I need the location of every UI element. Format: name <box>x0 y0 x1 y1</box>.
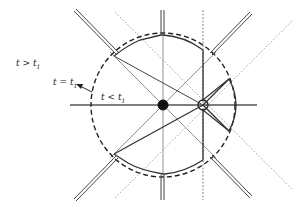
label-t-greater-text: t > t <box>16 58 37 68</box>
dotted-diagonal-2 <box>115 20 293 198</box>
dotted-diagonal-1 <box>115 12 293 190</box>
label-t-equal-sub: 1 <box>74 82 78 89</box>
label-t-equal: t = t1 <box>53 77 77 89</box>
label-t-greater: t > t1 <box>16 58 40 70</box>
front-line-diag-lower-left <box>114 105 203 154</box>
front-line-diag-upper-left <box>114 56 203 105</box>
label-t-less: t < t1 <box>101 92 125 104</box>
front-propagation-diagram <box>0 0 304 210</box>
origin-dot <box>158 100 168 110</box>
label-t-greater-sub: 1 <box>37 63 41 70</box>
label-t-less-sub: 1 <box>122 97 126 104</box>
label-t-less-text: t < t <box>101 92 122 102</box>
label-t-equal-text: t = t <box>53 77 74 87</box>
